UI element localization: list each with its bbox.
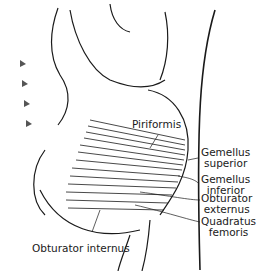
label-line: Obturator internus — [32, 243, 130, 254]
label-quadratus-femoris: Quadratus femoris — [201, 216, 256, 238]
muscle-diagram: Piriformis Gemellus superior Gemellus in… — [0, 0, 256, 271]
label-line: femoris — [201, 227, 256, 238]
label-gemellus-superior: Gemellus superior — [201, 147, 250, 169]
label-piriformis: Piriformis — [132, 119, 181, 130]
label-line: Piriformis — [132, 119, 181, 130]
label-obturator-externus: Obturator externus — [201, 193, 252, 215]
label-line: externus — [201, 204, 252, 215]
label-line: superior — [201, 158, 250, 169]
label-obturator-internus: Obturator internus — [32, 243, 130, 254]
